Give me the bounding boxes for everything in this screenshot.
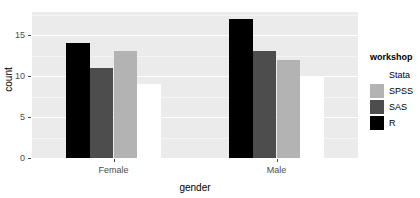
y-axis-title: count xyxy=(3,50,14,110)
bar xyxy=(90,68,114,158)
legend-label: SPSS xyxy=(389,86,413,96)
legend-title: workshop xyxy=(370,52,413,63)
x-tick-mark xyxy=(114,159,115,162)
bar xyxy=(137,84,161,158)
y-tick-label: 10 xyxy=(15,72,25,81)
legend-swatch xyxy=(370,84,384,98)
bar xyxy=(300,76,324,158)
y-tick-label: 0 xyxy=(20,154,25,163)
legend-label: R xyxy=(389,118,396,128)
bar xyxy=(277,60,301,158)
y-tick-label: 15 xyxy=(15,31,25,40)
y-tick-mark xyxy=(28,76,31,77)
x-tick-mark xyxy=(277,159,278,162)
legend: workshop StataSPSSSASR xyxy=(370,52,413,131)
bar xyxy=(114,51,138,158)
bar-chart: 051015 count FemaleMale gender workshop … xyxy=(0,0,420,198)
y-tick-mark xyxy=(28,35,31,36)
legend-label: SAS xyxy=(389,102,407,112)
legend-swatch xyxy=(370,68,384,82)
legend-swatch xyxy=(370,100,384,114)
legend-item: Stata xyxy=(370,67,413,83)
x-axis-title: gender xyxy=(0,182,390,193)
legend-item: SAS xyxy=(370,99,413,115)
legend-item: R xyxy=(370,115,413,131)
y-tick-label: 5 xyxy=(20,113,25,122)
y-tick-mark xyxy=(28,158,31,159)
legend-label: Stata xyxy=(389,70,410,80)
bar xyxy=(229,19,253,158)
legend-swatch xyxy=(370,116,384,130)
y-tick-mark xyxy=(28,117,31,118)
legend-item: SPSS xyxy=(370,83,413,99)
bar xyxy=(253,51,277,158)
gridline-major xyxy=(32,158,358,159)
bars-layer xyxy=(32,12,358,158)
x-tick-label: Female xyxy=(74,165,154,175)
legend-items: StataSPSSSASR xyxy=(370,67,413,131)
x-tick-label: Male xyxy=(237,165,317,175)
bar xyxy=(66,43,90,158)
plot-panel xyxy=(32,12,358,158)
